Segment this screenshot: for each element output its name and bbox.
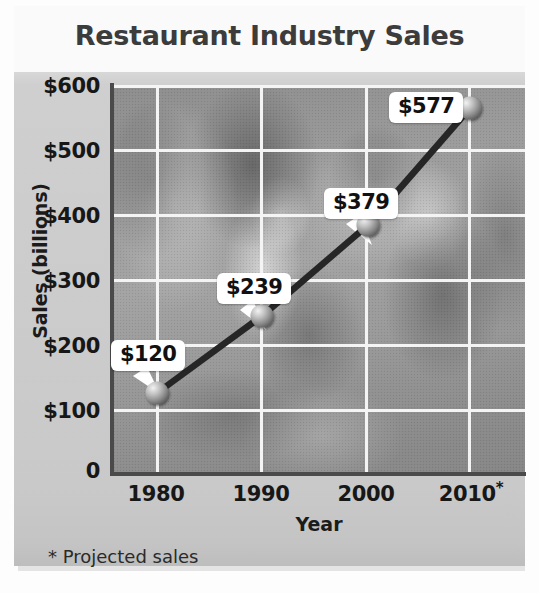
data-callout-1980: $120 xyxy=(111,340,185,371)
y-tick-label-0: 0 xyxy=(86,459,100,483)
y-tick-label-100: $100 xyxy=(43,399,100,423)
gridline-h-300 xyxy=(113,279,525,282)
y-axis-line xyxy=(110,83,114,476)
x-tick-star-2010: * xyxy=(496,479,503,497)
data-callout-2010: $577 xyxy=(389,92,463,123)
x-tick-label-1990: 1990 xyxy=(233,482,290,506)
x-tick-text-1980: 1980 xyxy=(128,482,185,506)
y-tick-label-600: $600 xyxy=(43,74,100,98)
x-tick-label-1980: 1980 xyxy=(128,482,185,506)
gridline-h-400 xyxy=(113,214,525,217)
y-tick-label-200: $200 xyxy=(43,334,100,358)
gridline-h-500 xyxy=(113,149,525,152)
gridline-h-100 xyxy=(113,409,525,412)
x-axis-title: Year xyxy=(113,513,525,535)
y-tick-label-300: $300 xyxy=(43,269,100,293)
gridline-v-1980 xyxy=(156,85,159,474)
x-tick-text-2000: 2000 xyxy=(338,482,395,506)
chart-footnote: * Projected sales xyxy=(48,546,198,567)
x-axis-line xyxy=(110,472,526,476)
y-axis-title: Sales (billions) xyxy=(29,161,51,361)
x-tick-label-2010: 2010* xyxy=(439,482,503,506)
plot-area xyxy=(113,85,525,474)
chart-title: Restaurant Industry Sales xyxy=(0,20,539,51)
data-callout-1990: $239 xyxy=(217,273,291,304)
chart-figure: Restaurant Industry Sales xyxy=(0,0,539,593)
data-callout-2000: $379 xyxy=(324,188,398,219)
gridline-v-2010 xyxy=(468,85,471,474)
y-tick-label-500: $500 xyxy=(43,139,100,163)
y-tick-label-400: $400 xyxy=(43,204,100,228)
gridline-v-2000 xyxy=(365,85,368,474)
gridline-h-600 xyxy=(113,85,525,88)
x-tick-text-2010: 2010 xyxy=(439,482,496,506)
x-tick-label-2000: 2000 xyxy=(338,482,395,506)
x-tick-text-1990: 1990 xyxy=(233,482,290,506)
